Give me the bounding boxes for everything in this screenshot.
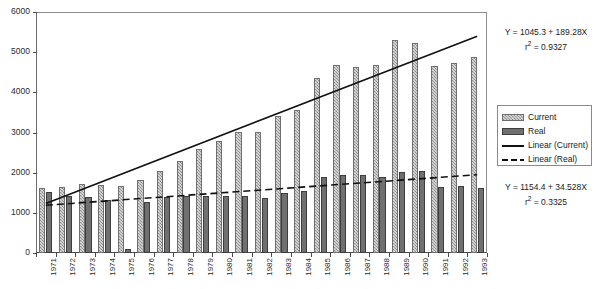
legend-item-current[interactable]: Current — [502, 111, 587, 124]
annotation-real-r2: r2 = 0.3325 — [498, 194, 594, 209]
annotation-current-equation: Y = 1045.3 + 189.28X — [498, 26, 594, 39]
trendline-real — [46, 175, 477, 206]
x-tick-label-1977: 1977 — [167, 258, 175, 276]
y-tick-label: 3000 — [11, 128, 30, 137]
legend-swatch-icon — [502, 128, 524, 135]
annotation-current-r2: r2 = 0.9327 — [498, 39, 594, 54]
annotation-real-fit: Y = 1154.4 + 34.528X r2 = 0.3325 — [498, 181, 594, 209]
x-tick-label-1972: 1972 — [69, 258, 77, 276]
x-tick-mark — [212, 253, 213, 257]
x-tick-label-1991: 1991 — [442, 258, 450, 276]
x-tick-label-1971: 1971 — [50, 258, 58, 276]
bar-chart: 6000500040003000200010000 19711972197319… — [0, 0, 598, 289]
x-tick-mark — [369, 253, 370, 257]
x-tick-mark — [154, 253, 155, 257]
legend-item-label: Linear (Current) — [528, 141, 588, 150]
x-tick-label-1984: 1984 — [305, 258, 313, 276]
annotation-real-r-value: = 0.3325 — [531, 197, 567, 207]
legend[interactable]: CurrentRealLinear (Current)Linear (Real) — [497, 105, 592, 166]
annotation-current-fit: Y = 1045.3 + 189.28X r2 = 0.9327 — [498, 26, 594, 54]
y-tick-label: 6000 — [11, 7, 30, 16]
legend-swatch-icon — [502, 142, 524, 149]
x-tick-label-1992: 1992 — [462, 258, 470, 276]
x-tick-label-1988: 1988 — [383, 258, 391, 276]
x-tick-mark — [95, 253, 96, 257]
x-tick-mark — [350, 253, 351, 257]
x-tick-label-1980: 1980 — [226, 258, 234, 276]
x-tick-mark — [291, 253, 292, 257]
x-tick-mark — [311, 253, 312, 257]
y-tick-label: 4000 — [11, 87, 30, 96]
y-tick-label: 5000 — [11, 47, 30, 56]
x-tick-mark — [193, 253, 194, 257]
x-tick-label-1973: 1973 — [89, 258, 97, 276]
x-tick-mark — [232, 253, 233, 257]
x-tick-mark — [428, 253, 429, 257]
x-tick-mark — [173, 253, 174, 257]
x-tick-label-1979: 1979 — [207, 258, 215, 276]
x-tick-label-1975: 1975 — [128, 258, 136, 276]
x-tick-label-1985: 1985 — [324, 258, 332, 276]
x-tick-mark — [134, 253, 135, 257]
legend-item-linear-current[interactable]: Linear (Current) — [502, 139, 587, 152]
x-tick-mark — [330, 253, 331, 257]
x-tick-label-1976: 1976 — [148, 258, 156, 276]
legend-swatch-icon — [502, 114, 524, 121]
x-tick-mark — [448, 253, 449, 257]
x-tick-label-1993: 1993 — [481, 258, 489, 276]
legend-item-linear-real[interactable]: Linear (Real) — [502, 153, 587, 166]
x-tick-label-1974: 1974 — [109, 258, 117, 276]
x-tick-mark — [75, 253, 76, 257]
x-tick-label-1990: 1990 — [422, 258, 430, 276]
x-tick-mark — [389, 253, 390, 257]
legend-item-label: Linear (Real) — [528, 155, 577, 164]
x-tick-mark — [409, 253, 410, 257]
x-tick-mark — [467, 253, 468, 257]
legend-swatch-icon — [502, 156, 524, 163]
annotation-real-equation: Y = 1154.4 + 34.528X — [498, 181, 594, 194]
trendlines-layer — [36, 12, 487, 253]
trendline-current — [46, 36, 477, 203]
x-tick-label-1986: 1986 — [344, 258, 352, 276]
legend-item-label: Current — [528, 113, 556, 122]
x-tick-mark — [114, 253, 115, 257]
x-tick-label-1987: 1987 — [364, 258, 372, 276]
y-tick-label: 0 — [25, 248, 30, 257]
x-tick-mark — [36, 253, 37, 257]
x-tick-label-1982: 1982 — [266, 258, 274, 276]
x-tick-label-1981: 1981 — [246, 258, 254, 276]
x-tick-mark — [56, 253, 57, 257]
x-tick-label-1989: 1989 — [403, 258, 411, 276]
legend-item-real[interactable]: Real — [502, 125, 587, 138]
x-tick-label-1983: 1983 — [285, 258, 293, 276]
y-tick-label: 1000 — [11, 208, 30, 217]
x-tick-mark — [252, 253, 253, 257]
legend-item-label: Real — [528, 127, 545, 136]
x-tick-label-1978: 1978 — [187, 258, 195, 276]
x-tick-mark — [487, 253, 488, 257]
annotation-current-r-value: = 0.9327 — [531, 42, 567, 52]
y-tick-label: 2000 — [11, 168, 30, 177]
x-tick-mark — [271, 253, 272, 257]
